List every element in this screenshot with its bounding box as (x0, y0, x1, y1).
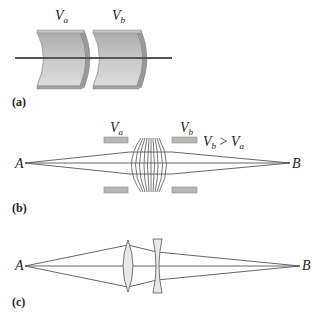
converging-lens (123, 240, 133, 292)
electrode-b-cylinder (93, 30, 147, 89)
panel-b: A B Va Vb Vb > Va (b) (12, 120, 301, 215)
voltage-condition: Vb > Va (203, 134, 245, 151)
label-va: Va (110, 120, 124, 137)
point-b: B (302, 258, 311, 273)
point-a: A (14, 258, 24, 273)
electrostatic-lens-diagram: Va Vb (a) A B Va (0, 0, 331, 321)
equipotential-lines (132, 138, 167, 192)
label-vb: Vb (180, 120, 194, 137)
panel-label-a: (a) (12, 95, 26, 109)
panel-label-c: (c) (12, 295, 25, 309)
point-b: B (292, 156, 301, 171)
label-va: Va (55, 8, 69, 25)
plate-b-bottom (172, 187, 197, 193)
panel-label-b: (b) (12, 201, 27, 215)
panel-a: Va Vb (a) (12, 8, 172, 109)
plate-a-top (104, 137, 128, 143)
plate-b-top (172, 137, 197, 143)
label-vb: Vb (112, 8, 126, 25)
panel-c: A B (c) (12, 239, 311, 309)
light-rays (25, 245, 300, 287)
electrode-a-cylinder (37, 30, 90, 89)
plate-a-bottom (104, 187, 128, 193)
point-a: A (14, 156, 24, 171)
